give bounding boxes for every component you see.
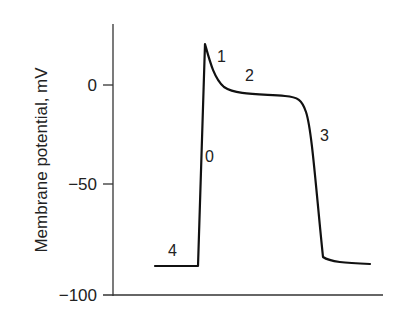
y-axis-label: Membrane potential, mV	[32, 67, 51, 253]
phase-label-3: 3	[320, 127, 329, 144]
phase-label-2: 2	[245, 67, 254, 84]
phase-label-4: 4	[168, 242, 177, 259]
phase-label-1: 1	[217, 48, 226, 65]
y-tick-label-minus100: −100	[59, 286, 97, 305]
y-tick-label-minus50: −50	[68, 175, 97, 194]
action-potential-curve	[155, 44, 370, 266]
action-potential-chart: Membrane potential, mV 0 −50 −100 0 1 2 …	[0, 0, 398, 321]
phase-label-0: 0	[205, 148, 214, 165]
y-tick-label-0: 0	[88, 76, 97, 95]
